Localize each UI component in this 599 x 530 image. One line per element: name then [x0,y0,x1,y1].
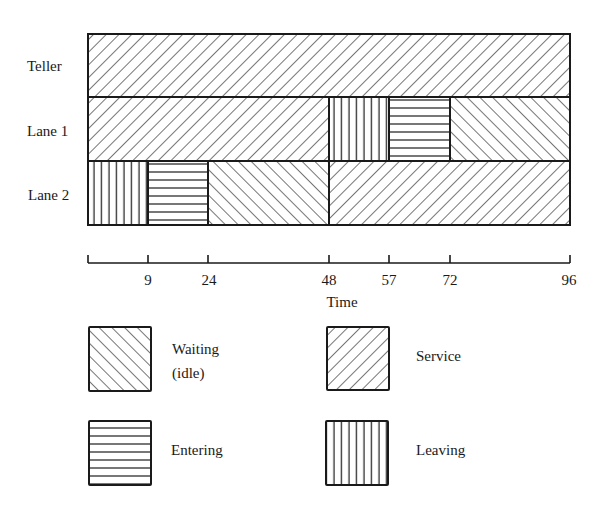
segment-lane2-service [329,161,570,225]
tick-label-48: 48 [322,272,337,288]
segment-lane1-leaving [329,97,389,161]
segment-lane1-waiting [450,97,570,161]
segment-teller-service [88,34,570,97]
row-label-lane-1: Lane 1 [27,123,68,139]
axis-tick-labels: 9 24 48 57 72 96 Time [144,272,577,310]
legend-label-waiting: Waiting [172,341,220,357]
tick-label-72: 72 [443,272,458,288]
row-label-teller: Teller [27,58,62,74]
tick-label-96: 96 [562,272,578,288]
legend-item-waiting: Waiting (idle) [89,327,220,391]
gantt-figure: Teller Lane 1 Lane 2 [0,0,599,530]
segment-lane1-entering [389,97,450,161]
time-axis [88,255,570,263]
row-teller [88,34,570,97]
tick-label-9: 9 [144,272,152,288]
segment-lane2-leaving [88,161,148,225]
row-label-lane-2: Lane 2 [28,187,69,203]
tick-label-57: 57 [382,272,398,288]
legend-label-entering: Entering [171,442,223,458]
segment-lane2-entering [148,161,208,225]
legend-item-leaving: Leaving [326,421,466,485]
legend-swatch-waiting [89,327,151,391]
legend-label-idle: (idle) [172,365,204,382]
legend-item-service: Service [327,327,461,390]
segment-lane1-service [88,97,329,161]
axis-title-time: Time [326,294,357,310]
segment-lane2-waiting [208,161,329,225]
legend-swatch-leaving [326,421,388,485]
legend: Waiting (idle) Service Entering Leaving [89,327,466,485]
tick-label-24: 24 [202,272,218,288]
legend-swatch-entering [89,421,151,485]
legend-label-service: Service [416,348,461,364]
legend-item-entering: Entering [89,421,223,485]
legend-swatch-service [327,327,389,390]
legend-label-leaving: Leaving [416,442,466,458]
